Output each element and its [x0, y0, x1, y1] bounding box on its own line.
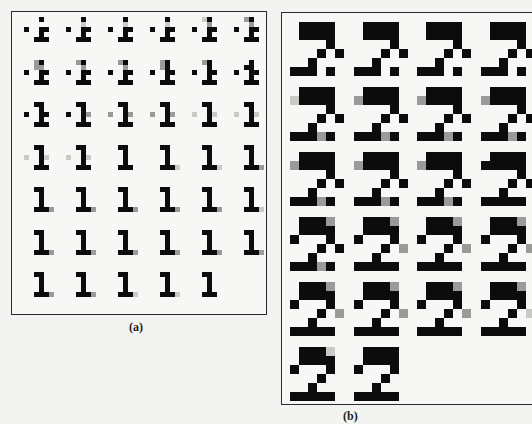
glyph-a-0-2 — [108, 17, 143, 42]
glyph-b-2-2 — [417, 152, 471, 206]
glyph-a-2-1 — [66, 102, 101, 127]
glyph-b-3-0 — [290, 217, 344, 271]
glyph-a-5-5 — [234, 230, 269, 255]
glyph-a-4-2 — [108, 187, 143, 212]
glyph-a-3-2 — [108, 145, 143, 170]
glyph-b-0-1 — [354, 22, 408, 76]
glyph-a-1-2 — [108, 60, 143, 85]
glyph-a-6-2 — [108, 272, 143, 297]
glyph-a-6-4 — [192, 272, 227, 297]
glyph-a-4-1 — [66, 187, 101, 212]
glyph-a-4-0 — [24, 187, 59, 212]
glyph-b-4-1 — [354, 282, 408, 336]
glyph-a-4-5 — [234, 187, 269, 212]
glyph-a-4-3 — [150, 187, 185, 212]
glyph-a-1-0 — [24, 60, 59, 85]
glyph-a-1-1 — [66, 60, 101, 85]
glyph-a-5-3 — [150, 230, 185, 255]
glyph-b-0-0 — [290, 22, 344, 76]
caption-b: (b) — [343, 409, 358, 424]
glyph-a-3-3 — [150, 145, 185, 170]
glyph-b-1-0 — [290, 87, 344, 141]
glyph-a-1-4 — [192, 60, 227, 85]
glyph-b-5-0 — [290, 347, 344, 401]
glyph-b-2-3 — [481, 152, 532, 206]
glyph-b-2-0 — [290, 152, 344, 206]
glyph-b-3-3 — [481, 217, 532, 271]
glyph-a-0-5 — [234, 17, 269, 42]
glyph-b-5-1 — [354, 347, 408, 401]
glyph-a-6-1 — [66, 272, 101, 297]
glyph-b-0-2 — [417, 22, 471, 76]
glyph-a-0-1 — [66, 17, 101, 42]
glyph-b-4-3 — [481, 282, 532, 336]
glyph-b-4-2 — [417, 282, 471, 336]
glyph-a-2-5 — [234, 102, 269, 127]
glyph-a-0-0 — [24, 17, 59, 42]
glyph-b-2-1 — [354, 152, 408, 206]
glyph-a-3-0 — [24, 145, 59, 170]
glyph-a-3-1 — [66, 145, 101, 170]
glyph-b-1-3 — [481, 87, 532, 141]
glyph-a-5-0 — [24, 230, 59, 255]
glyph-b-3-1 — [354, 217, 408, 271]
glyph-a-3-5 — [234, 145, 269, 170]
glyph-a-2-3 — [150, 102, 185, 127]
glyph-a-4-4 — [192, 187, 227, 212]
glyph-a-5-2 — [108, 230, 143, 255]
caption-a: (a) — [129, 320, 143, 335]
glyph-a-2-4 — [192, 102, 227, 127]
glyph-a-5-1 — [66, 230, 101, 255]
glyph-b-0-3 — [481, 22, 532, 76]
glyph-a-1-5 — [234, 60, 269, 85]
glyph-b-3-2 — [417, 217, 471, 271]
glyph-a-2-0 — [24, 102, 59, 127]
glyph-a-0-3 — [150, 17, 185, 42]
glyph-a-2-2 — [108, 102, 143, 127]
glyph-b-4-0 — [290, 282, 344, 336]
glyph-a-3-4 — [192, 145, 227, 170]
glyph-b-1-1 — [354, 87, 408, 141]
glyph-a-0-4 — [192, 17, 227, 42]
glyph-b-1-2 — [417, 87, 471, 141]
glyph-a-1-3 — [150, 60, 185, 85]
glyph-a-6-3 — [150, 272, 185, 297]
glyph-a-5-4 — [192, 230, 227, 255]
glyph-a-6-0 — [24, 272, 59, 297]
